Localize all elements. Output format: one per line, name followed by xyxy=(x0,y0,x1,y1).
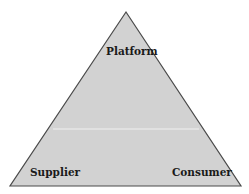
triangle-diagram xyxy=(0,0,249,194)
node-platform: Platform xyxy=(106,45,158,57)
triangle-shape xyxy=(10,12,241,186)
node-consumer: Consumer xyxy=(172,166,232,178)
node-supplier: Supplier xyxy=(30,166,80,178)
